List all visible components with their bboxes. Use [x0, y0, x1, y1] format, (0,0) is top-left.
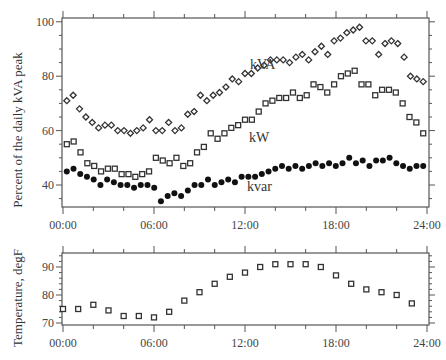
data-point-kva — [395, 41, 401, 47]
data-point-kva — [318, 43, 324, 49]
data-point-kvar — [413, 163, 419, 169]
data-point-square — [112, 166, 117, 171]
data-point-kva — [388, 38, 394, 44]
data-point-square — [304, 93, 309, 98]
data-point-kva — [376, 51, 382, 57]
data-point-kva — [140, 125, 146, 131]
data-point-kvar — [346, 155, 352, 161]
data-point-kvar — [111, 179, 117, 185]
data-point-kva — [197, 92, 203, 98]
data-point-kva — [350, 27, 356, 33]
data-point-kvar — [212, 182, 218, 188]
data-point-square — [92, 163, 97, 168]
y-tick-label: 70 — [42, 316, 54, 330]
data-point-square — [212, 281, 217, 286]
temp-y-axis-title: Temperature, degF — [10, 249, 25, 347]
data-point-kva — [287, 60, 293, 66]
data-point-square — [256, 109, 261, 114]
data-point-square — [249, 117, 254, 122]
data-point-square — [182, 298, 187, 303]
data-point-kva — [407, 73, 413, 79]
data-point-kvar — [97, 182, 103, 188]
data-point-kvar — [118, 182, 124, 188]
data-point-square — [284, 95, 289, 100]
data-point-kvar — [178, 193, 184, 199]
x-tick-label: 06:00 — [140, 218, 167, 232]
data-point-kvar — [420, 163, 426, 169]
data-point-kvar — [407, 166, 413, 172]
data-point-square — [167, 161, 172, 166]
data-point-kvar — [104, 177, 110, 183]
data-point-square — [152, 315, 157, 320]
data-point-square — [105, 166, 110, 171]
data-point-kvar — [198, 182, 204, 188]
main-y-axis-title: Percent of the daily kVA peak — [10, 52, 25, 208]
data-point-kva — [223, 84, 229, 90]
data-point-kva — [312, 49, 318, 55]
y-tick-label: 100 — [36, 15, 54, 29]
data-point-square — [332, 82, 337, 87]
data-point-square — [243, 117, 248, 122]
data-point-kva — [242, 70, 248, 76]
data-point-kvar — [138, 182, 144, 188]
data-point-kvar — [218, 179, 224, 185]
data-point-square — [352, 68, 357, 73]
data-point-kva — [115, 128, 121, 134]
data-point-kva — [166, 119, 172, 125]
data-point-square — [400, 101, 405, 106]
y-tick-label: 40 — [42, 178, 54, 192]
data-point-kva — [172, 128, 178, 134]
data-point-square — [140, 172, 145, 177]
data-point-kvar — [387, 155, 393, 161]
data-point-kvar — [272, 166, 278, 172]
data-point-kva — [299, 51, 305, 57]
data-point-kva — [363, 38, 369, 44]
data-point-square — [188, 161, 193, 166]
data-point-kvar — [400, 163, 406, 169]
data-point-kvar — [84, 174, 90, 180]
data-point-kva — [121, 128, 127, 134]
data-point-square — [258, 265, 263, 270]
data-point-kvar — [64, 168, 70, 174]
y-tick-label: 80 — [42, 288, 54, 302]
data-point-square — [126, 172, 131, 177]
x-tick-label: 24:00 — [413, 336, 440, 350]
data-point-square — [91, 302, 96, 307]
data-point-kvar — [124, 182, 130, 188]
data-point-square — [133, 174, 138, 179]
data-point-square — [393, 90, 398, 95]
data-point-kva — [293, 54, 299, 60]
data-point-square — [379, 290, 384, 295]
x-tick-label: 12:00 — [231, 218, 258, 232]
data-point-kvar — [151, 185, 157, 191]
data-point-kva — [127, 130, 133, 136]
data-point-square — [236, 123, 241, 128]
data-point-kvar — [232, 179, 238, 185]
data-point-kva — [64, 98, 70, 104]
data-point-square — [288, 262, 293, 267]
data-point-kvar — [91, 177, 97, 183]
temperature-plot: 00:0006:0012:0018:0024:00708090 — [42, 246, 441, 350]
data-point-square — [325, 90, 330, 95]
data-point-kva — [337, 35, 343, 41]
data-point-kva — [96, 125, 102, 131]
y-tick-label: 60 — [42, 124, 54, 138]
data-point-square — [311, 82, 316, 87]
data-point-square — [147, 169, 152, 174]
data-point-kvar — [266, 168, 272, 174]
data-point-square — [373, 93, 378, 98]
data-point-kva — [210, 92, 216, 98]
data-point-kva — [229, 76, 235, 82]
data-point-kvar — [299, 166, 305, 172]
data-point-square — [208, 131, 213, 136]
data-point-square — [181, 163, 186, 168]
data-point-square — [290, 90, 295, 95]
data-point-square — [64, 142, 69, 147]
data-point-kva — [191, 109, 197, 115]
data-point-kvar — [279, 163, 285, 169]
data-point-square — [394, 293, 399, 298]
data-point-kva — [331, 38, 337, 44]
data-point-square — [318, 85, 323, 90]
data-point-kva — [401, 54, 407, 60]
chart-canvas: 00:0006:0012:0018:0024:00406080100 00:00… — [0, 0, 446, 360]
